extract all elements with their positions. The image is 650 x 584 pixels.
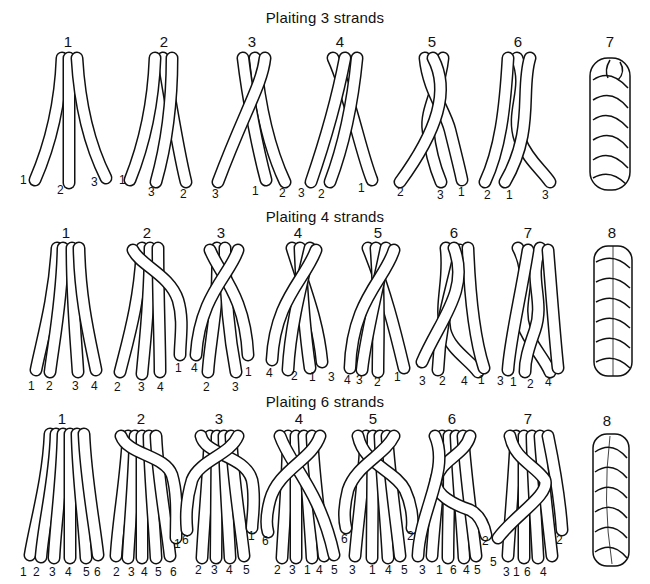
strand-label: 1 [369, 564, 376, 576]
strand-label: 1 [20, 566, 27, 578]
strand-label: 2 [274, 564, 281, 576]
strand-label: 3 [503, 566, 510, 578]
strands-illustration-6 [0, 0, 650, 584]
strand-label: 6 [341, 533, 348, 545]
strand-label: 5 [490, 556, 497, 568]
strand-label: 4 [463, 564, 470, 576]
strand-label: 1 [513, 566, 520, 578]
strand-label: 3 [419, 564, 426, 576]
strand-label: 5 [83, 566, 90, 578]
strand-label: 6 [262, 535, 269, 547]
finished-braid-6 [593, 434, 629, 566]
strand-label: 3 [128, 566, 135, 578]
strand-label: 4 [141, 566, 148, 578]
strand-label: 3 [49, 566, 56, 578]
strand-label: 1 [248, 530, 255, 542]
strand-label: 3 [211, 564, 218, 576]
strand-label: 2 [407, 530, 414, 542]
strand-label: 1 [304, 564, 311, 576]
strand-label: 5 [243, 564, 250, 576]
strand-label: 5 [331, 564, 338, 576]
strand-label: 4 [65, 566, 72, 578]
strand-label: 2 [482, 535, 489, 547]
strand-label: 6 [182, 534, 189, 546]
strand-label: 6 [170, 566, 177, 578]
strand-label: 5 [401, 564, 408, 576]
strand-label: 2 [195, 564, 202, 576]
strand-label: 6 [524, 566, 531, 578]
strand-label: 3 [289, 564, 296, 576]
strand-label: 4 [385, 564, 392, 576]
strand-label: 3 [349, 564, 356, 576]
strand-label: 1 [436, 564, 443, 576]
strand-label: 2 [33, 566, 40, 578]
strand-label: 4 [540, 566, 547, 578]
strand-label: 4 [316, 564, 323, 576]
strand-label: 6 [94, 566, 101, 578]
strand-label: 1 [174, 538, 181, 550]
strand-label: 5 [474, 564, 481, 576]
strand-label: 2 [113, 566, 120, 578]
strand-label: 2 [556, 534, 563, 546]
strand-label: 6 [450, 564, 457, 576]
strand-label: 4 [226, 564, 233, 576]
strand-label: 5 [155, 566, 162, 578]
